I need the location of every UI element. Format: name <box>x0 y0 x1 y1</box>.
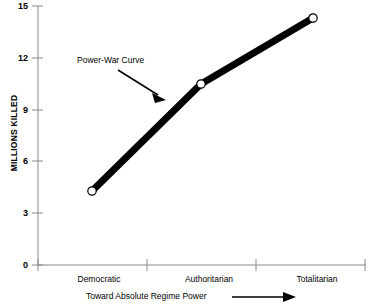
x-axis-title: Toward Absolute Regime Power <box>86 291 206 301</box>
annotation-arrow-head <box>152 93 166 103</box>
axis-direction-arrow-icon <box>232 292 296 302</box>
annotation-arrow-shaft <box>118 70 158 95</box>
y-tick-label-0: 0 <box>6 260 28 270</box>
x-tick-label-authoritarian: Authoritarian <box>163 274 255 284</box>
y-tick-label-12: 12 <box>6 53 28 63</box>
y-tick-label-3: 3 <box>6 208 28 218</box>
x-tick-label-totalitarian: Totalitarian <box>272 274 362 284</box>
y-axis-title: MILLIONS KILLED <box>9 78 19 188</box>
power-war-curve-chart: 15 12 9 6 3 0 Democratic Authoritarian T… <box>0 0 370 306</box>
power-war-curve-line <box>92 18 313 191</box>
axis-arrow-head <box>283 292 296 302</box>
curve-annotation-label: Power-War Curve <box>77 55 144 65</box>
chart-plot-area <box>0 0 370 306</box>
data-point-democratic <box>88 187 96 195</box>
annotation-arrow-icon <box>118 70 166 103</box>
data-point-markers <box>88 14 317 195</box>
x-tick-label-democratic: Democratic <box>57 274 141 284</box>
data-point-authoritarian <box>197 80 205 88</box>
y-tick-label-15: 15 <box>6 1 28 11</box>
data-point-totalitarian <box>309 14 317 22</box>
